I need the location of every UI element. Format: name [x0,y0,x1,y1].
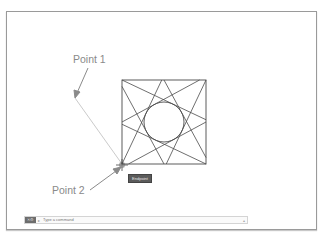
osnap-tooltip: Endpoint [128,174,152,183]
point2-arrowhead-icon [113,167,121,174]
pinwheel-line [122,124,206,164]
command-line-buttons[interactable]: ✕⚙ [25,217,36,223]
pinwheel-line [164,80,206,158]
point1-arrowhead-icon [74,90,80,98]
drawing-canvas[interactable] [0,0,321,238]
pinwheel-line [122,80,162,164]
wrench-icon[interactable]: ⚙ [30,217,34,223]
command-line[interactable]: ✕⚙ ▸ ▴ [24,216,248,224]
point1-label: Point 1 [73,53,106,65]
pinwheel-line [122,80,206,120]
square-outline [122,80,206,164]
pinwheel-line [122,80,200,122]
command-input[interactable] [40,217,243,223]
rubberband-line [75,98,122,164]
center-circle [144,102,184,142]
point2-label: Point 2 [52,184,85,196]
pinwheel-line [122,86,164,164]
chevron-up-icon[interactable]: ▴ [243,218,247,223]
pinwheel-line [166,80,206,164]
pinwheel-line [128,122,206,164]
point1-leader-line [77,68,88,93]
point2-leader-line [90,171,116,190]
